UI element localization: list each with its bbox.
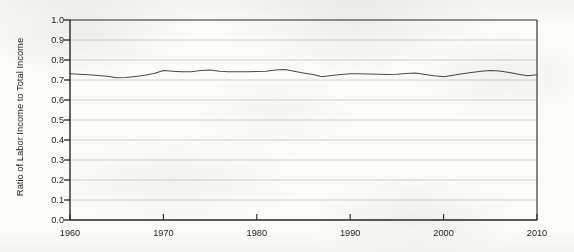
gridlines (71, 40, 537, 200)
plot-area (0, 0, 574, 252)
figure-line-chart: Ratio of Labor Income to Total Income 1.… (0, 0, 574, 252)
data-series-line (70, 70, 537, 78)
x-axis-ticks (70, 214, 537, 220)
y-axis-ticks (64, 20, 70, 220)
